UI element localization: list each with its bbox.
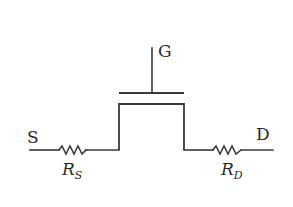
source-resistor-label: RS [61, 159, 83, 182]
drain-resistor-subscript: D [233, 169, 243, 182]
drain-resistor-symbol: R [220, 159, 234, 179]
channel [119, 104, 184, 150]
source-resistor-symbol: R [61, 159, 75, 179]
source-resistor-subscript: S [75, 169, 83, 182]
source-resistor-icon [59, 146, 86, 154]
drain-resistor-icon [213, 146, 241, 154]
source-label: S [27, 127, 39, 147]
gate-label: G [158, 41, 172, 61]
drain-label: D [256, 124, 270, 144]
mosfet-circuit-diagram: G S D RS RD [0, 0, 293, 207]
drain-resistor-label: RD [220, 159, 243, 182]
